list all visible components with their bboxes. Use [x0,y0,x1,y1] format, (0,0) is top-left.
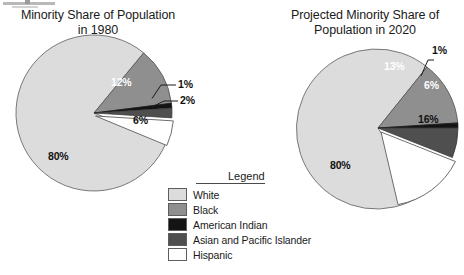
legend-item-american-indian: American Indian [168,217,318,232]
legend-title: Legend [196,170,265,184]
legend-label-white: White [193,189,219,201]
slice-label-white-1980: 80% [48,150,68,162]
legend-title-wrap: Legend [168,166,318,187]
page-crop-artifact-2 [25,0,30,4]
slice-label-black-1980: 12% [111,76,131,88]
slice-label-hispanic-1980: 6% [133,114,148,126]
slice-label-asian-pacific-2020: 6% [424,79,439,91]
chart-page: Minority Share of Population in 1980 Pro… [0,0,464,275]
legend-label-hispanic: Hispanic [193,249,232,261]
legend-label-asian-pacific: Asian and Pacific Islander [193,234,311,246]
legend-swatch-black [168,203,187,216]
slice-label-american-indian-2020: 1% [432,44,447,56]
legend-swatch-american-indian [168,218,187,231]
slice-black-1980 [94,53,171,113]
slice-label-american-indian-1980: 1% [178,78,193,90]
legend-item-asian-pacific: Asian and Pacific Islander [168,232,318,247]
legend-swatch-asian-pacific [168,233,187,246]
legend: Legend White Black American Indian Asian… [168,166,318,262]
legend-swatch-white [168,188,187,201]
legend-item-black: Black [168,202,318,217]
slice-label-hispanic-2020: 16% [418,113,438,125]
chart-title-2020: Projected Minority Share of Population i… [272,8,458,38]
callout-line-1percent-2020 [421,60,434,76]
slice-label-black-2020: 13% [384,60,404,72]
slice-asian-pacific-2020 [378,128,458,158]
slice-hispanic-2020 [381,132,455,205]
callout-line-1percent-1980 [152,85,176,99]
chart-title-1980: Minority Share of Population in 1980 [4,8,192,38]
slice-white-1980 [16,35,167,191]
legend-swatch-hispanic [168,248,187,261]
legend-item-hispanic: Hispanic [168,247,318,262]
slice-label-white-2020: 80% [330,159,350,171]
legend-item-white: White [168,187,318,202]
slice-label-asian-pacific-1980: 2% [180,94,195,106]
legend-label-black: Black [193,204,218,216]
legend-label-american-indian: American Indian [193,219,267,231]
pie-2020 [296,49,458,209]
slice-american-indian-1980 [94,103,172,113]
callout-line-2percent-1980 [152,101,178,107]
pie-1980 [16,35,178,191]
